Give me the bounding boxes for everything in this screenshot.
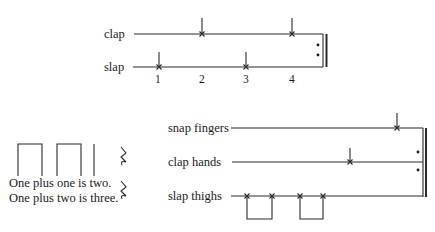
beat-number-1: 1 bbox=[155, 73, 161, 85]
eighth-pair-bracket-1 bbox=[247, 196, 272, 219]
repeat-sign-top bbox=[317, 34, 327, 67]
text-line-2: One plus two is three. bbox=[9, 191, 118, 205]
quarter-rest-icon bbox=[121, 181, 126, 199]
eighth-pair-bracket-2 bbox=[300, 196, 323, 219]
track-label-snap-fingers: snap fingers bbox=[168, 121, 229, 135]
track-label-slap: slap bbox=[104, 60, 124, 74]
track-label-clap: clap bbox=[104, 27, 125, 41]
beam-bracket-1 bbox=[18, 144, 42, 176]
beat-number-4: 4 bbox=[289, 73, 295, 85]
beam-bracket-2 bbox=[57, 144, 81, 176]
bottom-rhythm-figure: snap fingers clap hands slap thighs bbox=[168, 113, 426, 219]
text-line-1: One plus one is two. bbox=[9, 176, 111, 190]
top-rhythm-figure: clap slap 1 2 3 4 bbox=[104, 18, 327, 85]
track-label-clap-hands: clap hands bbox=[168, 155, 221, 169]
track-label-slap-thighs: slap thighs bbox=[168, 189, 222, 203]
text-rhythm-figure: One plus one is two. One plus two is thr… bbox=[9, 144, 126, 205]
beat-number-3: 3 bbox=[243, 73, 249, 85]
rhythm-diagram: clap slap 1 2 3 4 bbox=[0, 0, 435, 232]
beat-number-2: 2 bbox=[199, 73, 205, 85]
quarter-rest-icon bbox=[121, 147, 126, 165]
slap-thighs-marks bbox=[245, 194, 326, 220]
